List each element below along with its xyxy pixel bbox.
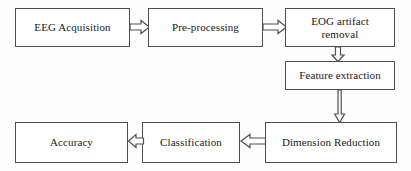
node-label: Classification xyxy=(160,136,222,149)
node-dimension-reduction[interactable]: Dimension Reduction xyxy=(265,122,397,163)
node-label: Accuracy xyxy=(50,136,93,149)
arrow-feature-extraction-to-dimension-reduction xyxy=(333,90,347,123)
arrow-eeg-acquisition-to-pre-processing xyxy=(130,20,150,34)
node-accuracy[interactable]: Accuracy xyxy=(15,122,128,163)
arrow-dimension-reduction-to-classification xyxy=(240,134,266,148)
node-eog-artifact-removal[interactable]: EOG artifact removal xyxy=(285,8,395,47)
node-classification[interactable]: Classification xyxy=(142,122,240,163)
node-pre-processing[interactable]: Pre-processing xyxy=(148,8,263,47)
node-label: EOG artifact removal xyxy=(311,15,369,41)
node-eeg-acquisition[interactable]: EEG Acquisition xyxy=(15,8,130,47)
node-label: EEG Acquisition xyxy=(34,21,110,34)
node-label: Feature extraction xyxy=(299,69,381,82)
node-feature-extraction[interactable]: Feature extraction xyxy=(285,61,395,90)
node-label: Pre-processing xyxy=(172,21,239,34)
node-label: Dimension Reduction xyxy=(282,136,380,149)
arrow-eog-artifact-to-feature-extraction xyxy=(331,47,345,62)
flowchart-canvas: EEG Acquisition Pre-processing EOG artif… xyxy=(0,0,411,171)
arrow-classification-to-accuracy xyxy=(128,134,144,148)
arrow-pre-processing-to-eog-artifact xyxy=(263,20,287,34)
